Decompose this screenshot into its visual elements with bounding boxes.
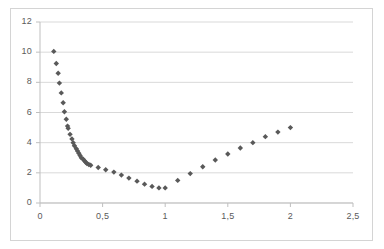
data-point-marker [126,175,131,180]
data-point-marker [96,165,101,170]
data-point-marker [288,125,293,130]
data-point-marker [60,100,65,105]
x-tick-label: 0,5 [90,211,116,221]
data-point-marker [134,178,139,183]
chart-canvas [0,0,384,249]
data-point-marker [238,145,243,150]
data-point-marker [64,117,69,122]
y-tick-label: 12 [10,16,32,26]
y-tick-label: 8 [10,76,32,86]
data-point-marker [149,184,154,189]
data-point-marker [225,151,230,156]
data-point-marker [175,178,180,183]
data-point-marker [263,134,268,139]
x-tick-label: 2 [277,211,303,221]
x-tick-label: 1 [152,211,178,221]
data-point-marker [156,185,161,190]
data-point-marker [250,140,255,145]
y-tick-label: 6 [10,107,32,117]
data-point-marker [213,157,218,162]
y-tick-label: 0 [10,197,32,207]
y-tick-label: 4 [10,137,32,147]
y-tick-label: 2 [10,167,32,177]
data-point-marker [57,80,62,85]
data-point-marker [163,185,168,190]
data-point-marker [51,49,56,54]
x-tick-label: 0 [27,211,53,221]
data-point-marker [59,90,64,95]
scatter-plot: 024681012 00,511,522,5 [0,0,384,249]
data-point-marker [275,129,280,134]
data-point-marker [103,167,108,172]
y-tick-label: 10 [10,46,32,56]
data-point-marker [55,71,60,76]
data-point-marker [200,164,205,169]
x-tick-label: 2,5 [340,211,366,221]
data-point-marker [142,181,147,186]
data-point-marker [111,169,116,174]
data-point-marker [62,109,67,114]
data-point-marker [188,171,193,176]
x-tick-label: 1,5 [215,211,241,221]
data-point-marker [54,61,59,66]
